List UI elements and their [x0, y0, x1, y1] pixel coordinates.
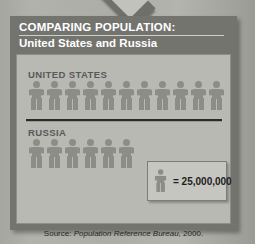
person-icon [118, 139, 135, 169]
person-icon [154, 169, 167, 192]
person-icon [28, 139, 45, 169]
person-icon [64, 139, 81, 169]
person-icon [100, 81, 117, 111]
source-reference: Population Reference Bureau, [74, 229, 181, 238]
person-icon [64, 81, 81, 111]
title-divider-rule [19, 35, 224, 36]
legend-box: = 25,000,000 [147, 161, 227, 201]
series-label-united-states: UNITED STATES [28, 69, 107, 80]
person-icon [136, 81, 153, 111]
person-icon [100, 139, 117, 169]
chart-frame: COMPARING POPULATION: United States and … [10, 16, 237, 230]
person-icon [190, 81, 207, 111]
row-divider-shadow [26, 121, 222, 122]
person-icon [154, 81, 171, 111]
person-icon [46, 139, 63, 169]
pictogram-row-united-states [28, 81, 225, 111]
person-icon [82, 139, 99, 169]
pictogram-row-russia [28, 139, 135, 169]
chart-title-secondary: United States and Russia [19, 37, 237, 50]
source-label: Source: [44, 229, 72, 238]
population-infographic: COMPARING POPULATION: United States and … [0, 0, 255, 244]
series-label-russia: RUSSIA [28, 127, 66, 138]
person-icon [208, 81, 225, 111]
legend-value-label: = 25,000,000 [173, 176, 232, 187]
person-icon [118, 81, 135, 111]
chart-panel: UNITED STATES RUSSIA = 25,000,000 [16, 54, 231, 224]
source-year: 2000. [183, 229, 203, 238]
person-icon [28, 81, 45, 111]
title-block: COMPARING POPULATION: United States and … [10, 16, 237, 54]
person-icon [46, 81, 63, 111]
source-citation: Source: Population Reference Bureau, 200… [10, 229, 237, 238]
person-icon [172, 81, 189, 111]
chart-title-primary: COMPARING POPULATION: [19, 21, 237, 34]
person-icon [82, 81, 99, 111]
